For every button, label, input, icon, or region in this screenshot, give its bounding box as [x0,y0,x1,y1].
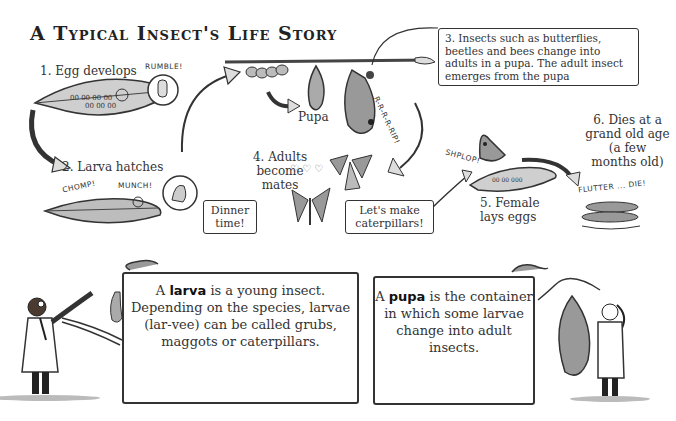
svg-text:00 00 000: 00 00 000 [492,176,523,183]
stage-3-callout: 3. Insects such as butterflies, beetles … [438,28,639,86]
larva-leaf-icon [45,197,161,223]
egg-leaf-icon: 00 00 00 00 00 00 00 [35,79,166,115]
caterpillar-icon [246,65,288,78]
branch-icon [225,60,430,62]
svg-text:00 00 00 00: 00 00 00 00 [70,94,112,102]
stage-5-label: 5. Female lays eggs [480,196,550,224]
page-title: A Typical Insect's Life Story [30,22,337,44]
caterpillar-decoration-2-icon [512,265,548,272]
arrow-pupa-to-adults-icon [400,103,422,168]
larva-definition-box: A larva is a young insect. Depending on … [122,272,359,404]
arrow-adults-to-eggs-icon [430,175,468,210]
stage-6-label: 6. Dies at a grand old age (a few months… [585,113,670,169]
svg-text:00 00 00: 00 00 00 [85,102,116,110]
pupa-label: Pupa [298,110,329,124]
scientist-female-icon [559,296,650,402]
dinner-time-speech-bubble: Dinner time! [203,200,257,234]
scientist-male-icon [0,293,100,401]
arrow-larva-to-pupa-icon [182,75,230,152]
larva-closeup-icon [163,176,197,210]
egg-laying-leaf-icon: 00 00 000 [470,168,556,192]
munch-sound: MUNCH! [118,181,152,190]
lets-make-caterpillars-speech-bubble: Let's make caterpillars! [345,200,434,234]
stage-1-label: 1. Egg develops [40,64,137,78]
arrow-egg-to-larva-icon [32,110,60,165]
pupa-icon [308,66,324,110]
rumble-sound: RUMBLE! [145,62,183,71]
rumble-egg-closeup-icon [148,75,178,105]
larva-term: larva [169,283,206,298]
stage-2-label: 2. Larva hatches [62,160,163,174]
female-butterfly-icon [480,135,505,161]
pupa-term: pupa [389,289,426,304]
stage-4-label: 4. Adults become mates [240,150,320,192]
dying-butterfly-icon [582,202,640,229]
pupa-definition-box: A pupa is the container in which some la… [373,276,535,405]
emerging-butterfly-icon [345,70,375,133]
